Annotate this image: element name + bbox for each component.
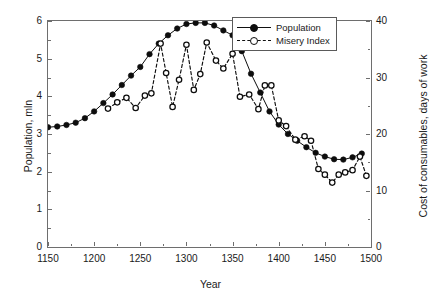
data-point (262, 83, 267, 88)
data-point (82, 115, 88, 121)
x-tick-label: 1450 (305, 253, 345, 264)
data-point (105, 106, 110, 111)
x-minor-tick (71, 244, 72, 247)
data-point (170, 104, 175, 109)
y-minor-tick-left (48, 153, 51, 154)
data-point (184, 21, 190, 27)
y-minor-tick-right (368, 219, 371, 220)
open-circle-icon (250, 37, 258, 45)
x-tick-label: 1400 (259, 253, 299, 264)
legend-label-population: Population (276, 22, 321, 33)
x-tick-label: 1200 (74, 253, 114, 264)
y-minor-tick-left (48, 115, 51, 116)
y-tick-left (48, 59, 52, 60)
x-tick-label: 1250 (120, 253, 160, 264)
data-point (336, 172, 341, 177)
y-axis-right-title: Cost of consumables, days of work (417, 31, 429, 241)
data-point (110, 92, 116, 98)
data-point (342, 170, 347, 175)
data-point (256, 106, 261, 111)
data-point (357, 154, 362, 159)
data-point (331, 156, 337, 162)
y-tick-label-left: 5 (16, 53, 42, 64)
y-tick-right (366, 21, 370, 22)
data-point (147, 51, 153, 57)
data-point (184, 42, 189, 47)
data-point (221, 66, 226, 71)
x-minor-tick (302, 244, 303, 247)
x-minor-tick (256, 244, 257, 247)
y-tick-label-right: 0 (376, 241, 404, 252)
data-canvas (48, 21, 371, 247)
data-point (316, 166, 321, 171)
data-point (330, 180, 335, 185)
data-point (293, 137, 298, 142)
data-point (124, 95, 129, 100)
data-point (221, 28, 227, 33)
data-point (54, 124, 60, 130)
data-point (364, 173, 369, 178)
y-tick-label-right: 10 (376, 185, 404, 196)
y-tick-label-left: 1 (16, 203, 42, 214)
legend-label-misery-index: Misery Index (276, 35, 330, 46)
data-point (202, 21, 208, 26)
x-tick (48, 242, 49, 246)
y-tick-left (48, 172, 52, 173)
y-minor-tick-left (48, 228, 51, 229)
x-minor-tick (210, 244, 211, 247)
data-point (128, 73, 134, 79)
x-tick-label: 1500 (351, 253, 391, 264)
y-tick-label-left: 2 (16, 166, 42, 177)
y-minor-tick-left (48, 40, 51, 41)
data-point (211, 23, 217, 29)
x-tick (186, 242, 187, 246)
data-point (174, 26, 180, 32)
data-point (193, 21, 199, 26)
y-tick-label-left: 4 (16, 90, 42, 101)
data-point (158, 41, 163, 46)
y-minor-tick-right (368, 106, 371, 107)
data-point (269, 83, 274, 88)
x-tick-label: 1150 (28, 253, 68, 264)
legend-item-population: Population (237, 21, 330, 34)
data-point (64, 122, 70, 128)
data-point (133, 105, 138, 110)
y-tick-label-left: 0 (16, 241, 42, 252)
data-point (302, 134, 307, 139)
y-minor-tick-right (368, 49, 371, 50)
data-point (213, 58, 218, 63)
data-point (91, 109, 97, 115)
data-point (198, 71, 203, 76)
x-tick (94, 242, 95, 246)
x-axis-title: Year (0, 278, 421, 290)
data-point (115, 100, 120, 105)
data-point (276, 118, 281, 123)
data-point (341, 157, 347, 163)
data-point (246, 92, 251, 97)
data-point (73, 120, 79, 126)
chart-legend: Population Misery Index (232, 17, 337, 51)
x-tick (233, 242, 234, 246)
y-minor-tick-right (368, 162, 371, 163)
x-tick (371, 242, 372, 246)
data-point (204, 40, 209, 45)
x-tick (140, 242, 141, 246)
data-point (230, 51, 235, 56)
y-tick-right (366, 78, 370, 79)
data-point (165, 33, 171, 39)
y-minor-tick-left (48, 78, 51, 79)
data-point (350, 167, 355, 172)
y-tick-label-left: 3 (16, 128, 42, 139)
y-tick-left (48, 209, 52, 210)
y-tick-left (48, 21, 52, 22)
data-point (149, 91, 154, 96)
x-tick-label: 1350 (213, 253, 253, 264)
y-minor-tick-left (48, 191, 51, 192)
x-minor-tick (163, 244, 164, 247)
x-minor-tick (348, 244, 349, 247)
y-tick-label-left: 6 (16, 15, 42, 26)
data-point (267, 109, 273, 115)
y-tick-left (48, 96, 52, 97)
data-point (308, 138, 313, 143)
